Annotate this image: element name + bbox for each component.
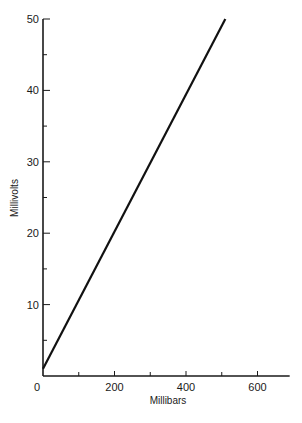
y-tick-label: 20	[27, 227, 39, 239]
x-tick-label: 0	[34, 381, 40, 393]
x-tick-label: 200	[105, 381, 123, 393]
line-chart: 1020304050 0200400600 Millibars Millivol…	[0, 0, 302, 423]
series-line	[43, 19, 225, 369]
y-tick-label: 30	[27, 156, 39, 168]
y-tick-label: 40	[27, 84, 39, 96]
x-axis: 0200400600	[34, 371, 290, 393]
x-axis-label: Millibars	[150, 395, 187, 406]
y-axis: 1020304050	[27, 13, 50, 376]
y-axis-label: Millivolts	[9, 179, 20, 217]
x-tick-label: 400	[177, 381, 195, 393]
x-tick-label: 600	[248, 381, 266, 393]
data-series	[43, 19, 225, 369]
y-tick-label: 10	[27, 299, 39, 311]
y-tick-label: 50	[27, 13, 39, 25]
